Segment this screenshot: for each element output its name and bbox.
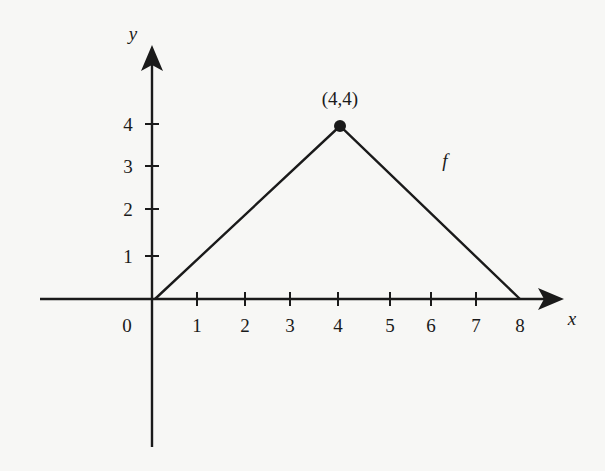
y-tick-label-1: 1 <box>123 246 133 267</box>
x-tick-label-8: 8 <box>515 315 525 336</box>
chart-figure: y x 0 (4,4) f 1 2 3 4 5 6 7 8 1 2 3 4 <box>0 0 605 471</box>
peak-label: (4,4) <box>322 88 358 110</box>
origin-label: 0 <box>122 315 132 336</box>
function-f-line <box>155 126 520 299</box>
y-tick-label-3: 3 <box>123 156 133 177</box>
chart-canvas: y x 0 (4,4) f 1 2 3 4 5 6 7 8 1 2 3 4 <box>0 0 605 471</box>
x-tick-label-6: 6 <box>426 315 436 336</box>
x-tick-label-7: 7 <box>471 315 481 336</box>
x-tick-label-2: 2 <box>240 315 250 336</box>
function-label: f <box>442 150 450 171</box>
x-tick-label-5: 5 <box>385 315 395 336</box>
y-axis-label: y <box>127 23 138 44</box>
x-tick-label-1: 1 <box>192 315 202 336</box>
peak-point-marker <box>334 120 346 132</box>
x-tick-label-4: 4 <box>333 315 343 336</box>
x-tick-label-3: 3 <box>285 315 295 336</box>
y-tick-label-2: 2 <box>123 199 133 220</box>
y-tick-label-4: 4 <box>123 114 133 135</box>
x-axis-label: x <box>567 308 577 329</box>
